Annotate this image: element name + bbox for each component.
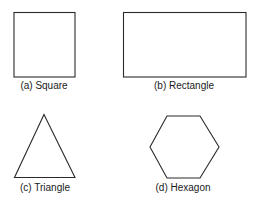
rectangle-label: (b) Rectangle	[154, 81, 214, 91]
triangle-label: (c) Triangle	[20, 183, 70, 193]
rectangle-shape	[124, 13, 247, 78]
hexagon-shape	[150, 116, 219, 178]
square-label: (a) Square	[20, 81, 67, 91]
hexagon-label: (d) Hexagon	[155, 183, 210, 193]
triangle-shape	[15, 115, 76, 178]
shapes-diagram	[0, 0, 254, 202]
square-shape	[14, 13, 75, 78]
